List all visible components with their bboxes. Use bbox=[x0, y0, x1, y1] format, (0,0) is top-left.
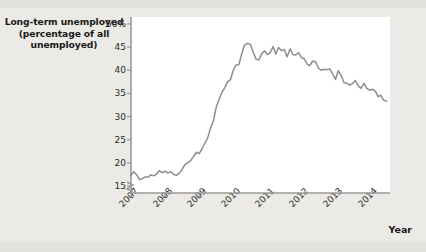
y-axis-break-icon bbox=[127, 182, 133, 192]
x-axis-title: Year bbox=[388, 224, 412, 235]
figure: Long-term unemployed (percentage of all … bbox=[0, 0, 426, 252]
chart-canvas bbox=[0, 0, 426, 252]
data-series-line bbox=[131, 43, 387, 179]
axes-group bbox=[127, 17, 390, 197]
